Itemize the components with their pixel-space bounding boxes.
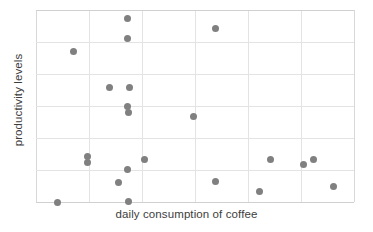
gridline-horizontal <box>36 42 354 43</box>
y-axis-label: productivity levels <box>12 30 24 170</box>
x-axis-label: daily consumption of coffee <box>0 208 373 220</box>
data-point <box>212 178 219 185</box>
data-point <box>70 48 77 55</box>
gridline-horizontal <box>36 10 354 11</box>
data-point <box>125 198 132 205</box>
data-point <box>124 35 131 42</box>
gridline-horizontal <box>36 202 354 203</box>
data-point <box>267 156 274 163</box>
gridline-horizontal <box>36 170 354 171</box>
gridline-vertical <box>354 10 355 202</box>
data-point <box>212 25 219 32</box>
data-point <box>125 109 132 116</box>
gridline-horizontal <box>36 138 354 139</box>
data-point <box>330 183 337 190</box>
scatter-plot-figure: daily consumption of coffee productivity… <box>0 0 373 232</box>
plot-area <box>36 10 354 202</box>
data-point <box>190 113 197 120</box>
gridline-horizontal <box>36 74 354 75</box>
data-point <box>310 156 317 163</box>
data-point <box>84 159 91 166</box>
data-point <box>115 179 122 186</box>
gridline-horizontal <box>36 106 354 107</box>
data-point <box>106 84 113 91</box>
data-point <box>300 161 307 168</box>
data-point <box>124 166 131 173</box>
data-point <box>54 199 61 206</box>
data-point <box>126 84 133 91</box>
data-point <box>141 156 148 163</box>
data-point <box>256 188 263 195</box>
data-point <box>124 15 131 22</box>
